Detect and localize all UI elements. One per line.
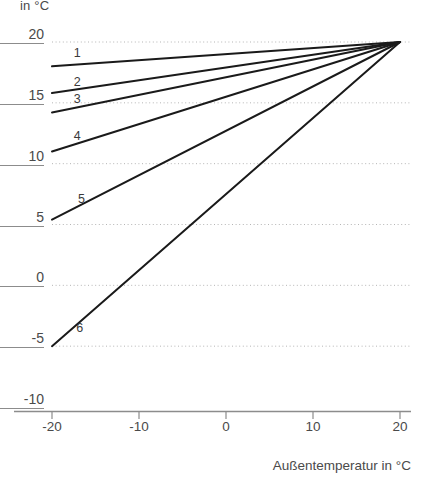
chart-container: in °C 20151050-5-10 -20-1001020 123456 A… [0, 0, 425, 489]
y-tick-label: -5 [0, 331, 44, 348]
y-tick-label: 20 [0, 27, 44, 44]
curve-label-4: 4 [74, 130, 81, 142]
x-tick-label: 0 [206, 419, 246, 434]
curve-label-6: 6 [76, 322, 83, 334]
x-axis-title: Außentemperatur in °C [273, 458, 411, 473]
x-tick-label: -10 [119, 419, 159, 434]
y-tick-label: -10 [0, 392, 44, 409]
y-tick-label: 15 [0, 88, 44, 105]
y-tick-label: 5 [0, 210, 44, 227]
x-tick-label: 20 [380, 419, 420, 434]
y-tick-label: 10 [0, 149, 44, 166]
data-line-3 [52, 42, 400, 113]
curve-label-2: 2 [74, 76, 81, 88]
curve-label-3: 3 [74, 93, 81, 105]
curve-label-1: 1 [74, 47, 81, 59]
data-line-4 [52, 42, 400, 152]
chart-canvas [0, 0, 425, 489]
curve-group [52, 42, 400, 346]
x-tick-mark-group [52, 412, 400, 420]
x-tick-label: -20 [32, 419, 72, 434]
gridline-group [52, 42, 411, 346]
y-tick-label: 0 [0, 270, 44, 287]
curve-label-5: 5 [78, 193, 85, 205]
data-line-1 [52, 42, 400, 66]
x-tick-label: 10 [293, 419, 333, 434]
